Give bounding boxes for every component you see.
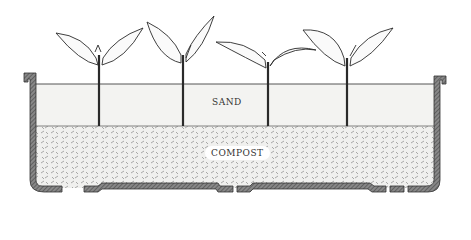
compost-label: COMPOST	[205, 146, 270, 160]
sand-label: SAND	[212, 97, 242, 107]
